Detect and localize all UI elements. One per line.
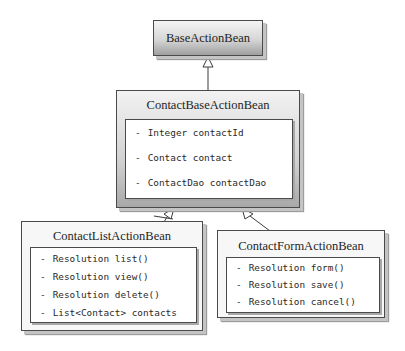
- member-method: -Resolution view(): [40, 271, 149, 282]
- member-field: -List<Contact> contacts: [40, 307, 177, 318]
- class-name: ContactFormActionBean: [218, 239, 384, 254]
- class-base-action-bean: BaseActionBean: [153, 20, 263, 56]
- inheritance-line-contactform: [250, 216, 270, 231]
- member-field: -Contact contact: [135, 152, 232, 163]
- class-name: BaseActionBean: [154, 31, 262, 46]
- member-method: -Resolution list(): [40, 253, 149, 264]
- class-name: ContactListActionBean: [22, 229, 202, 244]
- member-method: -Resolution save(): [236, 279, 345, 290]
- class-contact-base-action-bean: ContactBaseActionBean -Integer contactId…: [116, 90, 300, 208]
- class-contact-list-action-bean: ContactListActionBean -Resolution list()…: [21, 221, 203, 331]
- class-name: ContactBaseActionBean: [117, 98, 299, 113]
- member-method: -Resolution cancel(): [236, 296, 356, 307]
- member-field: -Integer contactId: [135, 127, 244, 138]
- member-method: -Resolution form(): [236, 262, 345, 273]
- members-compartment: -Resolution form() -Resolution save() -R…: [226, 257, 380, 313]
- member-method: -Resolution delete(): [40, 289, 160, 300]
- member-field: -ContactDao contactDao: [135, 177, 266, 188]
- class-contact-form-action-bean: ContactFormActionBean -Resolution form()…: [217, 230, 385, 318]
- members-compartment: -Integer contactId -Contact contact -Con…: [125, 119, 293, 199]
- members-compartment: -Resolution list() -Resolution view() -R…: [30, 247, 197, 323]
- inheritance-arrowhead-icon: [203, 57, 213, 67]
